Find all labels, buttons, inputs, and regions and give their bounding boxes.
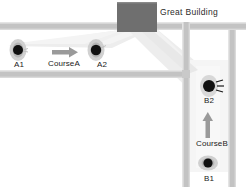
- road-network-diagram: Great Building A1 A2 B2 B1 CourseA Cours…: [0, 0, 246, 187]
- marker-label-a2: A2: [97, 60, 107, 69]
- marker-label-b2: B2: [204, 96, 214, 105]
- marker-b2-icon[interactable]: [200, 75, 224, 97]
- marker-b1-icon[interactable]: [198, 156, 218, 171]
- building-label: Great Building: [160, 7, 218, 17]
- signal-rays-icon: [216, 80, 224, 92]
- marker-label-a1: A1: [14, 60, 24, 69]
- marker-a2-icon[interactable]: [88, 39, 107, 61]
- course-label-b: CourseB: [196, 139, 228, 148]
- marker-layer: [0, 0, 246, 187]
- marker-label-b1: B1: [204, 174, 214, 183]
- marker-a1-icon[interactable]: [10, 39, 29, 61]
- course-label-a: CourseA: [48, 59, 80, 68]
